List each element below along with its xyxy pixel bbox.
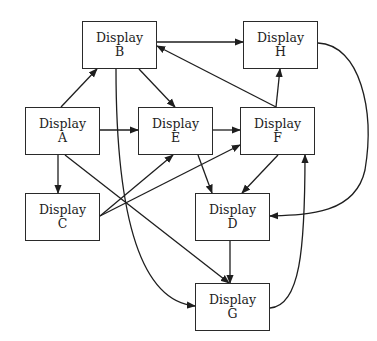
node-label-line1: Display (209, 203, 256, 217)
node-display-e: DisplayE (138, 107, 213, 155)
node-display-a: DisplayA (25, 107, 100, 155)
edge-a-to-b (61, 69, 97, 107)
node-label-line2: D (227, 217, 237, 231)
node-display-b: DisplayB (82, 21, 157, 69)
node-label-line2: G (228, 307, 238, 321)
node-label-line1: Display (152, 117, 199, 131)
edge-c-to-e (100, 155, 173, 216)
edge-f-to-d (242, 155, 278, 193)
node-label-line2: E (171, 131, 180, 145)
edge-b-to-e (139, 69, 175, 107)
edge-f-to-h (276, 69, 280, 107)
node-label-line1: Display (39, 203, 86, 217)
node-label-line2: C (58, 217, 68, 231)
node-label-line1: Display (254, 117, 301, 131)
node-label-line2: A (58, 131, 67, 145)
node-label-line1: Display (39, 117, 86, 131)
edges-layer (0, 0, 377, 341)
node-display-c: DisplayC (25, 193, 100, 241)
node-label-line1: Display (96, 31, 143, 45)
node-label-line2: H (275, 45, 286, 59)
edge-g-to-f (270, 155, 305, 308)
node-display-f: DisplayF (240, 107, 315, 155)
node-label-line1: Display (257, 31, 304, 45)
node-display-g: DisplayG (195, 283, 270, 331)
node-label-line2: B (115, 45, 124, 59)
node-display-h: DisplayH (243, 21, 318, 69)
node-display-d: DisplayD (195, 193, 270, 241)
node-label-line1: Display (209, 293, 256, 307)
node-label-line2: F (273, 131, 282, 145)
